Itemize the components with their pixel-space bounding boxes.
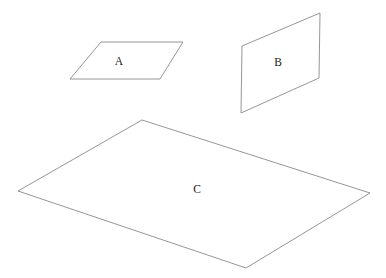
plane-b-label: B <box>274 56 282 68</box>
geometry-diagram: A B C <box>0 0 386 278</box>
figure-canvas: A B C <box>0 0 386 278</box>
plane-c-label: C <box>193 183 201 195</box>
plane-a-label: A <box>115 55 124 67</box>
plane-a-outline <box>70 42 183 79</box>
